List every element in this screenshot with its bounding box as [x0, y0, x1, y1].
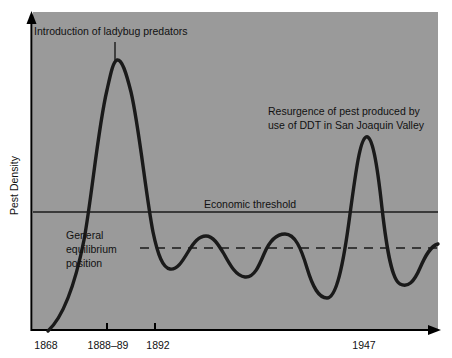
ladybug-annotation-text: Introduction of ladybug predators	[34, 25, 188, 37]
x-tick-label-1947: 1947	[352, 339, 376, 351]
equilibrium-annotation-line2: equilibrium	[66, 243, 117, 255]
ddt-annotation-line1: Resurgence of pest produced by	[268, 105, 421, 117]
pest-density-chart: Pest Density 1868 1888–89 1892 1947 Intr…	[0, 0, 452, 358]
x-tick-label-1889: 1888–89	[88, 339, 129, 351]
equilibrium-annotation-line1: General	[66, 229, 103, 241]
x-tick-label-1868: 1868	[34, 339, 58, 351]
x-tick-label-1892: 1892	[146, 339, 170, 351]
economic-threshold-label: Economic threshold	[204, 198, 296, 210]
chart-svg: Pest Density 1868 1888–89 1892 1947 Intr…	[0, 0, 452, 358]
y-axis-title: Pest Density	[8, 155, 20, 215]
ddt-annotation-line2: use of DDT in San Joaquin Valley	[268, 119, 425, 131]
equilibrium-annotation-line3: position	[66, 257, 102, 269]
